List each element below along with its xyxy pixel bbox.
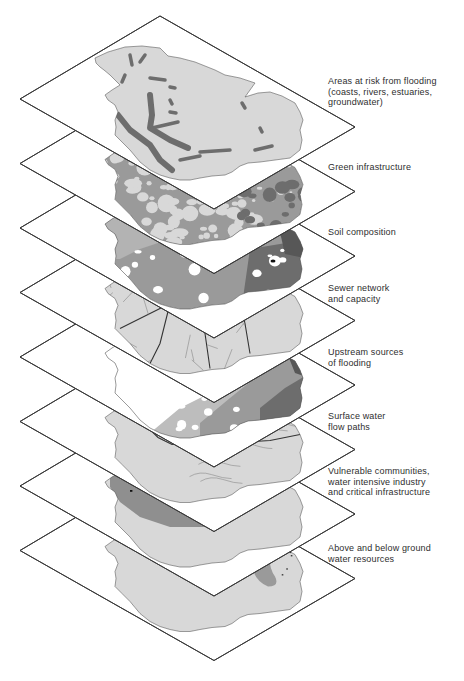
label-line: Sewer network xyxy=(328,283,389,294)
label-line: Above and below ground xyxy=(328,543,431,554)
label-line: water intensive industry xyxy=(328,477,430,488)
label-line: Surface water xyxy=(328,411,385,422)
label-line: and capacity xyxy=(328,294,389,305)
label-flood-risk: Areas at risk from flooding(coasts, rive… xyxy=(328,76,437,108)
label-upstream-sources: Upstream sourcesof flooding xyxy=(328,347,403,368)
label-line: groundwater) xyxy=(328,97,437,108)
label-soil-composition: Soil composition xyxy=(328,227,396,238)
label-line: Upstream sources xyxy=(328,347,403,358)
label-line: Vulnerable communities, xyxy=(328,466,430,477)
label-line: (coasts, rivers, estuaries, xyxy=(328,87,437,98)
label-line: of flooding xyxy=(328,358,403,369)
label-line: and critical infrastructure xyxy=(328,487,430,498)
label-line: water resources xyxy=(328,554,431,565)
label-green-infrastructure: Green infrastructure xyxy=(328,162,411,173)
label-line: Soil composition xyxy=(328,227,396,238)
label-surface-water: Surface waterflow paths xyxy=(328,411,385,432)
label-line: flow paths xyxy=(328,422,385,433)
label-line: Areas at risk from flooding xyxy=(328,76,437,87)
label-line: Green infrastructure xyxy=(328,162,411,173)
label-vulnerable-communities: Vulnerable communities,water intensive i… xyxy=(328,466,430,498)
label-sewer-network: Sewer networkand capacity xyxy=(328,283,389,304)
label-water-resources: Above and below groundwater resources xyxy=(328,543,431,564)
